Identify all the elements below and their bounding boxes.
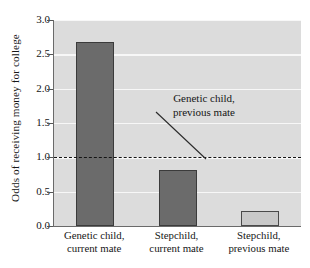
gridline — [54, 20, 301, 21]
bar-1 — [76, 42, 114, 226]
y-tick-label: 0.5 — [16, 186, 50, 197]
x-tick-label-line: current mate — [135, 242, 217, 255]
x-tick-label-line: Genetic child, — [53, 229, 135, 242]
y-tick-label: 0.0 — [16, 220, 50, 231]
bar-chart-figure: Odds of receiving money for college 3.0 … — [0, 0, 310, 268]
annotation-line-text: Genetic child, — [142, 92, 266, 106]
x-tick-label-line: Stepchild, — [135, 229, 217, 242]
bar-2 — [159, 170, 197, 226]
y-axis-tick-labels: 3.0 2.5 2.0 1.5 1.0 0.5 0.0 — [12, 0, 50, 268]
x-tick-label-line: previous mate — [218, 242, 300, 255]
bar-3 — [241, 211, 279, 226]
plot-area — [53, 20, 301, 227]
x-tick-label-1: Genetic child,current mate — [53, 229, 135, 256]
x-tick-label-line: Stepchild, — [218, 229, 300, 242]
x-tick-label-3: Stepchild,previous mate — [218, 229, 300, 256]
x-axis-tick-labels: Genetic child,current mateStepchild,curr… — [53, 229, 300, 267]
y-tick-label: 1.5 — [16, 117, 50, 128]
reference-line-odds-1 — [54, 157, 301, 158]
annotation-genetic-child-previous-mate: Genetic child,previous mate — [142, 92, 266, 119]
x-tick-label-line: current mate — [53, 242, 135, 255]
y-tick-label: 1.0 — [16, 151, 50, 162]
x-tick-label-2: Stepchild,current mate — [135, 229, 217, 256]
y-tick-label: 3.0 — [16, 14, 50, 25]
y-tick-label: 2.0 — [16, 83, 50, 94]
annotation-line-text: previous mate — [142, 106, 266, 120]
y-tick-label: 2.5 — [16, 48, 50, 59]
